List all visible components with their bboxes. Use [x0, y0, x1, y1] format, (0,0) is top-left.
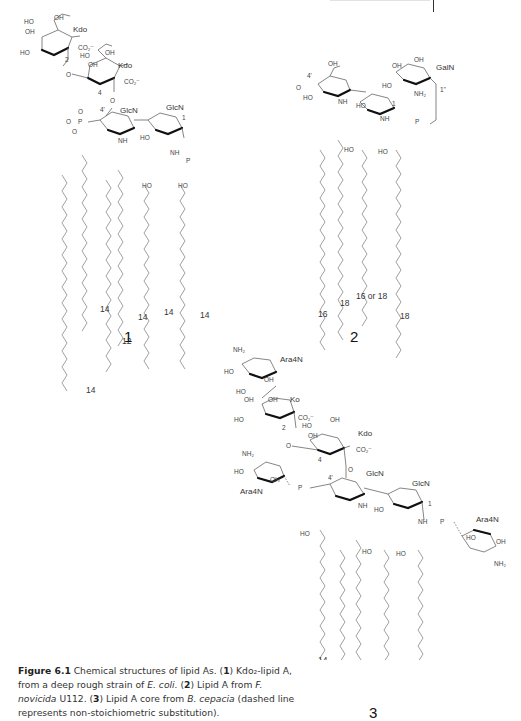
- sugar-label-kdo: Kdo: [118, 61, 133, 70]
- oh-label: OH: [330, 416, 340, 423]
- figure-label: Figure 6.1: [18, 665, 71, 676]
- sugar-label-ko: Ko: [290, 395, 300, 404]
- nh2-label: NH₂: [494, 560, 506, 567]
- ho-label: HO: [466, 534, 476, 541]
- phosphorus-label: P: [298, 484, 302, 491]
- structure-3: NH₂ HO OH Ara4N HO OH OH HO Ko CO₂⁻ 2 O …: [224, 346, 506, 660]
- chain-length-label: 16: [318, 309, 328, 319]
- position-label: 4: [318, 456, 322, 463]
- sugar-label-galn: GalN: [436, 63, 454, 72]
- chain-length-label: 18: [340, 298, 350, 308]
- oh-label: OH: [392, 62, 402, 69]
- position-label: 1'': [440, 86, 446, 93]
- o-label: O: [72, 128, 77, 135]
- o-label: O: [296, 84, 301, 91]
- position-label: 4': [100, 106, 105, 113]
- sugar-label-ara4n: Ara4N: [280, 355, 303, 364]
- oh-label: OH: [25, 28, 35, 35]
- oh-label: OH: [264, 376, 274, 383]
- chain-length-label: 14: [138, 312, 148, 322]
- ho-label: HO: [234, 416, 244, 423]
- o-label: O: [66, 71, 71, 78]
- ho-label: HO: [224, 368, 234, 375]
- carboxylate-label: CO₂⁻: [356, 446, 372, 453]
- position-label: 1: [392, 100, 396, 107]
- phosphorus-label: P: [186, 157, 190, 164]
- compound-number: 3: [369, 704, 377, 721]
- caption-text: U112. (: [57, 693, 94, 704]
- ho-label: HO: [236, 388, 246, 395]
- caption-text: ) Lipid A from: [191, 679, 256, 690]
- ho-label: HO: [234, 468, 244, 475]
- nh2-label: NH₂: [233, 346, 245, 353]
- chain-length-label: 18: [400, 311, 410, 321]
- sugar-label-ara4n: Ara4N: [240, 487, 263, 496]
- ho-label: HO: [142, 182, 152, 189]
- carboxylate-label: CO₂⁻: [78, 44, 94, 51]
- sugar-label-glcn: GlcN: [366, 469, 384, 478]
- position-label: 1: [428, 500, 432, 507]
- o-label: O: [66, 118, 71, 125]
- chain-length-label: 14: [164, 307, 174, 317]
- position-label: 2: [65, 56, 69, 63]
- ho-label: HO: [300, 530, 310, 537]
- sugar-label-glcn: GlcN: [166, 103, 184, 112]
- oh-label: OH: [105, 49, 115, 56]
- position-label: 1: [182, 114, 186, 121]
- position-label: 4: [98, 89, 102, 96]
- nh-label: NH: [380, 115, 390, 122]
- species-name: E. coli.: [147, 679, 177, 690]
- chain-length-label: 14: [86, 385, 96, 395]
- structure-1: HO OH OH HO Kdo CO₂⁻ 2 O HO OH OH Kdo CO…: [20, 14, 210, 395]
- position-label: 2: [282, 424, 286, 431]
- sugar-label-kdo: Kdo: [358, 429, 373, 438]
- phosphorus-label: P: [78, 118, 82, 125]
- chain-length-label: 14: [318, 655, 328, 660]
- position-label: 4': [307, 72, 312, 79]
- o-label: O: [110, 97, 115, 104]
- ho-label: HO: [382, 82, 392, 89]
- sugar-label-kdo: Kdo: [73, 25, 88, 34]
- nh-label: NH: [170, 149, 180, 156]
- compound-number: 2: [350, 328, 358, 345]
- chain-length-label: 16 or 18: [356, 291, 387, 301]
- compound-number: 1: [124, 328, 132, 345]
- ho-label: HO: [378, 148, 388, 155]
- species-name: B. cepacia: [187, 693, 235, 704]
- ho-label: HO: [302, 422, 312, 429]
- phosphorus-label: P: [440, 518, 444, 525]
- sugar-label-ara4n: Ara4N: [476, 515, 499, 524]
- nh2-label: NH₂: [414, 90, 426, 97]
- ho-label: HO: [396, 550, 406, 557]
- ho-label: HO: [140, 134, 150, 141]
- ho-label: HO: [356, 102, 366, 109]
- nh-label: NH: [338, 98, 348, 105]
- carboxylate-label: CO₂⁻: [124, 78, 140, 85]
- chain-length-label: 14: [200, 310, 210, 320]
- ho-label: HO: [20, 49, 30, 56]
- structure-2: OH 4' O HO NH HO 1 NH P OH OH HO NH₂ Gal…: [296, 56, 454, 358]
- sugar-label-glcn: GlcN: [412, 479, 430, 488]
- oh-label: OH: [308, 432, 318, 439]
- oh-label: OH: [414, 56, 424, 63]
- oh-label: OH: [328, 60, 338, 67]
- caption-text: Chemical structures of lipid As. (: [71, 665, 223, 676]
- oh-label: HO: [24, 18, 34, 25]
- ho-label: HO: [362, 548, 372, 555]
- nh-label: NH: [418, 518, 428, 525]
- ho-label: HO: [374, 506, 384, 513]
- position-label: 4': [328, 474, 333, 481]
- oh-label: OH: [88, 61, 98, 68]
- nh-label: NH: [118, 137, 128, 144]
- ho-label: HO: [303, 94, 313, 101]
- ho-label: HO: [80, 52, 90, 59]
- figure-caption: Figure 6.1 Chemical structures of lipid …: [18, 664, 298, 720]
- oh-label: OH: [244, 396, 254, 403]
- phosphorus-label: P: [415, 118, 419, 125]
- sugar-label-glcn: GlcN: [120, 106, 138, 115]
- ho-label: HO: [344, 146, 354, 153]
- oh-label: OH: [496, 538, 506, 545]
- o-label: O: [348, 466, 353, 473]
- nh-label: NH: [358, 502, 368, 509]
- oh-label: OH: [270, 476, 280, 483]
